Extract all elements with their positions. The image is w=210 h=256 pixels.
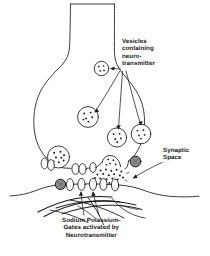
gate: [79, 164, 86, 175]
label-sodium-potassium-gates: Sodium Potassium- Gates activated by Neu…: [62, 217, 121, 239]
label-line: Synaptic: [163, 147, 189, 154]
gate: [100, 178, 107, 190]
label-line: Neurotransmitter: [62, 232, 121, 239]
gate: [78, 178, 85, 190]
dark-receptor: [55, 179, 65, 189]
label-line: Gates activated by: [62, 224, 121, 231]
label-line: Vesicles: [122, 38, 155, 45]
vesicle: [94, 61, 108, 75]
gate: [48, 160, 55, 171]
label-line: transmitter: [122, 60, 155, 67]
vesicle: [131, 124, 151, 144]
gate: [72, 164, 79, 175]
label-line: containing: [122, 45, 155, 52]
gate: [66, 179, 73, 191]
label-line: Sodium Potassium-: [62, 217, 121, 224]
label-line: neuro-: [122, 53, 155, 60]
label-synaptic-space: Synaptic Space: [163, 147, 189, 162]
label-vesicles-containing-neurotransmitter: Vesicles containing neuro- transmitter: [122, 38, 155, 68]
vesicle: [107, 128, 126, 147]
gate: [111, 179, 118, 191]
gate: [90, 163, 96, 173]
gate: [41, 158, 48, 169]
label-line: Space: [163, 154, 189, 161]
vesicle: [78, 107, 99, 128]
gate: [89, 178, 96, 190]
dark-receptor: [130, 156, 141, 167]
